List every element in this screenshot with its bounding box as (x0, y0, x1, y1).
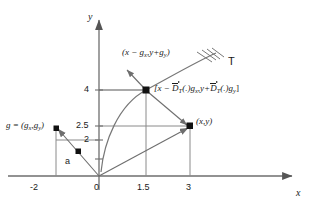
marker-point-xy (187, 123, 194, 130)
formula-D-first-arrow-tip (178, 81, 180, 83)
x-tick-label-minus2: -2 (30, 183, 38, 192)
shifted-label-sub-y: y (164, 51, 167, 58)
g-vector-sub-y: y (38, 124, 41, 131)
diagram-canvas: y x -2 0 1.5 3 4 2.5 2 g = (gx,gy) a (x,… (0, 0, 315, 210)
y-axis-label: y (88, 12, 92, 22)
formula-mid-2: ,y+ (198, 83, 210, 93)
vector-image-to-xy (148, 92, 187, 125)
y-tick-label-2p5: 2.5 (76, 121, 89, 130)
vector-origin-to-xy (99, 128, 188, 176)
formula-g-sub-y: y (233, 87, 236, 94)
curve-hatch-1 (197, 52, 212, 62)
formula-D-second-sub: T (217, 87, 221, 94)
formula-mid-1: (.)g (182, 83, 195, 93)
g-vector-label-open: g = (g (6, 120, 29, 130)
formula-mid-3: (.)g (220, 83, 233, 93)
pointer-to-shifted-label (127, 70, 144, 88)
shifted-label-open: (x − g (122, 47, 144, 57)
formula-open: [x − (154, 83, 172, 93)
transformed-point-formula: [x − DT(.)gx,y+DT(.)gy] (154, 84, 239, 93)
shifted-label-sub-x: x (144, 51, 147, 58)
curve-T-label: T (228, 56, 235, 67)
marker-a (76, 149, 82, 155)
formula-D-first-letter: D (172, 83, 179, 93)
shifted-point-label: (x − gx,y+gy) (122, 48, 170, 57)
curve-T (101, 53, 216, 172)
x-tick-label-0: 0 (94, 183, 99, 192)
formula-g-sub-x: x (195, 87, 198, 94)
curve-hatch-4 (212, 48, 224, 57)
formula-D-second: D (210, 84, 217, 93)
formula-close: ] (236, 83, 239, 93)
point-xy-label: (x,y) (196, 117, 212, 126)
curve-hatch-3 (207, 49, 220, 59)
formula-D-first-sub: T (179, 87, 183, 94)
x-tick-label-3: 3 (186, 183, 191, 192)
y-tick-label-4: 4 (84, 85, 89, 94)
g-vector-label: g = (gx,gy) (6, 121, 44, 130)
formula-D-first: D (172, 84, 179, 93)
marker-g (54, 126, 60, 132)
formula-D-second-arrow-tip (216, 81, 218, 83)
marker-transformed-point (143, 87, 150, 94)
g-vector-label-close: ) (41, 120, 44, 130)
y-tick-label-2: 2 (84, 135, 89, 144)
diagram-graphics (0, 0, 315, 210)
point-a-label: a (65, 157, 70, 166)
shifted-label-mid: ,y+g (147, 47, 164, 57)
x-tick-label-1p5: 1.5 (137, 183, 150, 192)
x-axis-label: x (296, 188, 300, 198)
shifted-label-close: ) (167, 47, 170, 57)
formula-D-second-letter: D (210, 83, 217, 93)
